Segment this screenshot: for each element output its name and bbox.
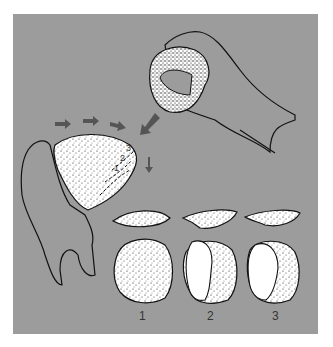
core-label-3: 3 bbox=[126, 144, 131, 153]
arrow-right-icon bbox=[55, 119, 71, 129]
flake-3 bbox=[245, 210, 300, 226]
arrow-right-icon bbox=[83, 116, 99, 126]
flake-2 bbox=[183, 210, 237, 228]
arrow-down-left-icon bbox=[140, 113, 160, 135]
flakes bbox=[113, 210, 300, 228]
knapping-illustration bbox=[0, 0, 333, 347]
arrow-down-icon bbox=[145, 157, 153, 173]
sequence-label-3: 3 bbox=[272, 310, 279, 322]
core-label-1: 1 bbox=[114, 164, 119, 173]
sequence-label-1: 1 bbox=[139, 310, 146, 322]
sequence-label-2: 2 bbox=[207, 310, 214, 322]
core-label-2: 2 bbox=[120, 154, 125, 163]
flake-1 bbox=[113, 211, 170, 227]
cores bbox=[114, 239, 299, 303]
core-1 bbox=[114, 239, 172, 303]
arrow-right-icon bbox=[110, 121, 126, 131]
